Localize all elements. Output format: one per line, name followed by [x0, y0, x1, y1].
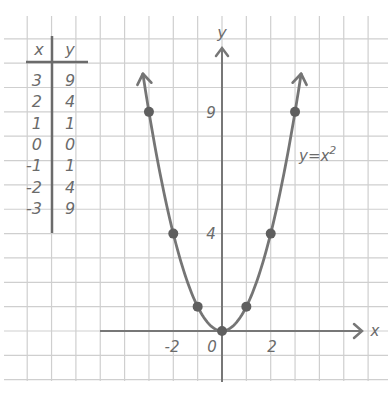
x-tick-label-0: 0 [207, 338, 217, 356]
table-header-x: x [33, 40, 44, 59]
xy-value-table: x y 39241100-11-24-39 [26, 36, 88, 233]
equation-base: y=x [298, 147, 329, 165]
parabola-graph: x y 39241100-11-24-39 x y -2 0 2 4 9 y=x… [0, 0, 390, 405]
data-point [217, 326, 227, 336]
table-cell-y: 1 [65, 156, 75, 175]
data-point [144, 107, 154, 117]
x-axis-label: x [370, 322, 380, 340]
table-cell-y: 4 [65, 92, 75, 111]
data-point [241, 302, 251, 312]
y-axis-label: y [216, 23, 227, 42]
table-cell-x: 1 [32, 114, 42, 133]
y-tick-label-9: 9 [206, 104, 216, 122]
table-cell-x: 0 [32, 135, 42, 154]
table-header-y: y [64, 40, 75, 59]
data-point [290, 107, 300, 117]
table-cell-x: -1 [26, 156, 42, 175]
data-point [266, 229, 276, 239]
table-cell-x: 3 [32, 71, 42, 90]
table-rows: 39241100-11-24-39 [26, 71, 75, 218]
equation-exponent: 2 [329, 144, 336, 157]
table-cell-y: 9 [65, 71, 75, 90]
table-cell-y: 0 [65, 135, 75, 154]
equation-label: y=x2 [298, 144, 336, 165]
data-point [193, 302, 203, 312]
data-point [168, 229, 178, 239]
table-cell-y: 9 [65, 199, 75, 218]
table-cell-x: 2 [32, 92, 42, 111]
x-tick-label-2: 2 [267, 338, 277, 356]
table-cell-y: 1 [65, 114, 75, 133]
x-tick-label-neg2: -2 [165, 338, 180, 356]
y-tick-label-4: 4 [206, 225, 216, 243]
table-cell-x: -3 [26, 199, 42, 218]
table-cell-x: -2 [26, 178, 42, 197]
graph-paper-grid [4, 16, 388, 381]
table-cell-y: 4 [65, 178, 75, 197]
